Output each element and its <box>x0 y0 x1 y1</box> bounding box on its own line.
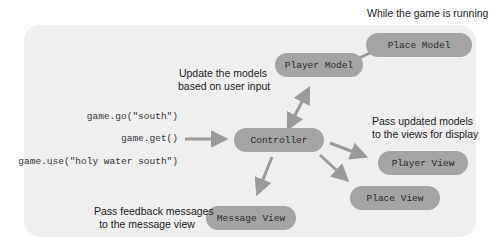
update-models-line-1: Update the models <box>178 67 268 80</box>
command-use-holy-water: game.use("holy water south") <box>18 156 178 168</box>
update-models-annotation: Update the models based on user input <box>178 67 268 93</box>
pass-models-line-2: to the views for display <box>372 128 472 141</box>
command-go-south: game.go("south") <box>87 111 178 123</box>
node-player-view: Player View <box>378 151 468 175</box>
player-view-arrow <box>330 143 364 156</box>
place-view-arrow <box>320 155 346 179</box>
node-place-view: Place View <box>350 186 440 210</box>
update-models-line-2: based on user input <box>178 80 268 93</box>
pass-models-line-1: Pass updated models <box>372 115 472 128</box>
pass-feedback-annotation: Pass feedback messages to the message vi… <box>94 205 200 231</box>
pass-feedback-line-1: Pass feedback messages <box>94 205 200 218</box>
node-place-model: Place Model <box>366 33 472 57</box>
node-controller: Controller <box>234 128 324 152</box>
message-view-arrow <box>258 157 272 192</box>
pass-feedback-line-2: to the message view <box>94 218 200 231</box>
controller-model-arrow <box>293 90 308 119</box>
node-player-model: Player Model <box>275 53 363 77</box>
node-message-view: Message View <box>206 206 296 230</box>
command-get: game.get() <box>121 133 178 145</box>
pass-models-annotation: Pass updated models to the views for dis… <box>372 115 472 141</box>
